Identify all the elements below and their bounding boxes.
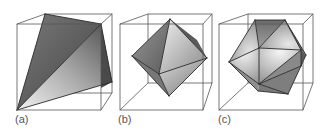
panel-c-icosahedron [219,14,313,110]
octahedron-solid [132,19,207,96]
cube-depth-edge [101,14,112,24]
panel-a-tetrahedron [17,14,112,110]
cube-depth-edge [203,14,212,24]
cube-depth-edge [120,14,148,24]
cube-depth-edge [17,14,45,24]
panel-label-b: (b) [118,114,131,125]
panel-label-a: (a) [15,114,28,125]
cube-depth-edge [303,83,313,110]
cube-depth-edge [203,83,212,110]
tetrahedron-solid [17,14,112,110]
cube-depth-edge [219,14,248,24]
panel-b-octahedron [120,14,212,110]
cube-depth-edge [219,83,248,110]
cube-depth-edge [303,14,313,24]
cube-depth-edge [120,83,148,110]
panel-label-c: (c) [218,114,231,125]
polyhedra-figure [0,0,324,131]
cube-depth-edge [101,93,112,110]
